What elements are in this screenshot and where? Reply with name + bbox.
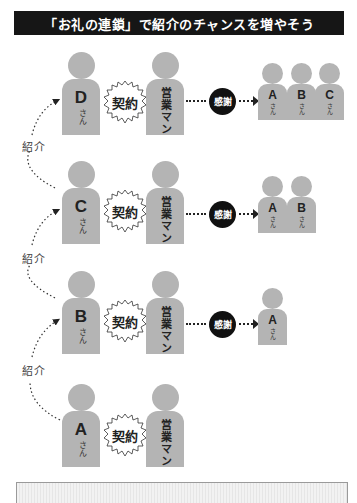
customer-letter: D: [75, 89, 87, 106]
introduction-label: 紹介: [22, 250, 46, 266]
contract-badge: 契約: [103, 299, 147, 343]
contract-badge: 契約: [103, 80, 147, 124]
bottom-panel: [16, 482, 348, 503]
thanks-flow: 感謝: [186, 310, 259, 338]
contract-badge: 契約: [103, 413, 147, 457]
introduction-label: 紹介: [22, 362, 46, 378]
thanks-badge: 感謝: [209, 201, 236, 228]
thanks-flow: 感謝: [186, 200, 259, 228]
thanks-flow: 感謝: [186, 87, 259, 115]
san-label: さん: [77, 109, 85, 125]
salesman-label: 営業マン: [157, 87, 173, 135]
figure-body: D さん: [62, 79, 100, 135]
thanks-badge: 感謝: [209, 311, 236, 338]
figure-head: [68, 52, 95, 79]
thanks-badge: 感謝: [209, 88, 236, 115]
introduction-label: 紹介: [22, 138, 46, 154]
contract-badge: 契約: [103, 189, 147, 233]
dotted-line: [186, 100, 206, 102]
dotted-line: [239, 100, 253, 102]
